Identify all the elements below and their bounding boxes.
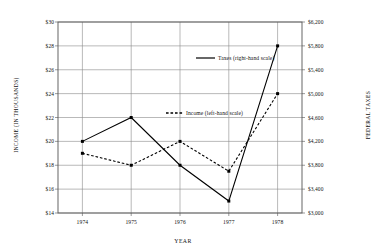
y-left-tick-20: $20 xyxy=(28,138,54,144)
y-right-tick-3400: $3,400 xyxy=(308,186,338,192)
y-right-tick-5800: $5,800 xyxy=(308,43,338,49)
y-right-tick-4600: $4,600 xyxy=(308,115,338,121)
y-left-tick-18: $18 xyxy=(28,162,54,168)
x-tick-1976: 1976 xyxy=(160,219,200,225)
y-left-tick-24: $24 xyxy=(28,91,54,97)
y-right-tick-3800: $3,800 xyxy=(308,162,338,168)
y-axis-right-title: FEDERAL TAXES xyxy=(365,55,371,175)
y-right-tick-6200: $6,200 xyxy=(308,19,338,25)
y-right-tick-3000: $3,000 xyxy=(308,210,338,216)
legend-label-income: Income (left-hand scale) xyxy=(186,110,243,116)
y-right-tick-4200: $4,200 xyxy=(308,138,338,144)
x-tick-1975: 1975 xyxy=(111,219,151,225)
y-left-tick-22: $22 xyxy=(28,115,54,121)
y-left-tick-30: $30 xyxy=(28,19,54,25)
x-tick-1977: 1977 xyxy=(209,219,249,225)
legend-label-taxes: Taxes (right-hand scale) xyxy=(218,55,274,61)
y-left-tick-28: $28 xyxy=(28,43,54,49)
y-left-tick-26: $26 xyxy=(28,67,54,73)
chart-container: INCOME (IN THOUSANDS) FEDERAL TAXES YEAR… xyxy=(0,0,378,251)
x-tick-1978: 1978 xyxy=(258,219,298,225)
y-left-tick-14: $14 xyxy=(28,210,54,216)
y-left-tick-16: $16 xyxy=(28,186,54,192)
x-axis-title: YEAR xyxy=(58,238,308,244)
x-tick-1974: 1974 xyxy=(62,219,102,225)
y-right-tick-5400: $5,400 xyxy=(308,67,338,73)
y-axis-left-title: INCOME (IN THOUSANDS) xyxy=(13,55,19,175)
y-right-tick-5000: $5,000 xyxy=(308,91,338,97)
